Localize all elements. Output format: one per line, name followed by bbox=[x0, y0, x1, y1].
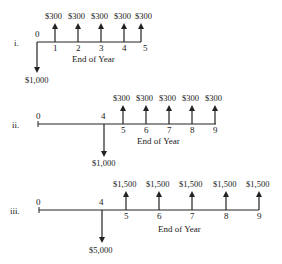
inflow-2: $300 2 bbox=[68, 11, 85, 53]
timeline-i: i. 0 $1,000 $300 1 $300 2 $300 3 $300 4 bbox=[14, 11, 152, 85]
axis-caption: End of Year bbox=[72, 54, 115, 64]
inflow-9: $1,500 9 bbox=[246, 179, 269, 221]
inflow-amount: $300 bbox=[114, 11, 131, 21]
year-label: 8 bbox=[224, 211, 229, 221]
inflow-6: $300 6 bbox=[136, 93, 153, 135]
timeline-ii: ii. 0 4 $1,000 $300 5 $300 6 $300 7 $300… bbox=[12, 93, 222, 168]
inflow-6: $1,500 6 bbox=[146, 179, 169, 221]
inflow-7: $300 7 bbox=[159, 93, 176, 135]
inflow-8: $1,500 8 bbox=[213, 179, 236, 221]
year-label: 5 bbox=[143, 43, 148, 53]
inflow-amount: $300 bbox=[135, 11, 152, 21]
year-label: 9 bbox=[257, 211, 262, 221]
year-zero-label: 0 bbox=[36, 197, 41, 207]
year-label: 9 bbox=[213, 125, 218, 135]
inflow-amount: $300 bbox=[68, 11, 85, 21]
inflow-amount: $300 bbox=[136, 93, 153, 103]
diagram-label: ii. bbox=[12, 120, 19, 130]
inflow-amount: $300 bbox=[113, 93, 130, 103]
year-label: 3 bbox=[99, 43, 104, 53]
cash-flow-diagrams: i. 0 $1,000 $300 1 $300 2 $300 3 $300 4 bbox=[0, 0, 282, 264]
year-label: 7 bbox=[190, 211, 195, 221]
outflow-amount: $1,000 bbox=[92, 158, 115, 168]
inflow-amount: $1,500 bbox=[113, 179, 136, 189]
inflow-7: $1,500 7 bbox=[179, 179, 202, 221]
inflow-amount: $1,500 bbox=[213, 179, 236, 189]
diagram-label: i. bbox=[14, 38, 19, 48]
inflow-amount: $300 bbox=[205, 93, 222, 103]
inflow-9: $300 9 bbox=[205, 93, 222, 135]
year-label: 2 bbox=[76, 43, 81, 53]
year-label: 7 bbox=[167, 125, 172, 135]
timeline-iii: iii. 0 4 $5,000 $1,500 5 $1,500 6 $1,500… bbox=[10, 179, 269, 255]
inflow-amount: $300 bbox=[45, 11, 62, 21]
inflow-amount: $1,500 bbox=[146, 179, 169, 189]
outflow-year-label: 4 bbox=[101, 111, 106, 121]
inflow-amount: $1,500 bbox=[246, 179, 269, 189]
inflow-5: $1,500 5 bbox=[113, 179, 136, 221]
axis-caption: End of Year bbox=[158, 224, 201, 234]
year-label: 8 bbox=[190, 125, 195, 135]
year-zero-label: 0 bbox=[35, 29, 40, 39]
year-zero-label: 0 bbox=[36, 111, 41, 121]
inflow-amount: $1,500 bbox=[179, 179, 202, 189]
year-label: 6 bbox=[144, 125, 149, 135]
inflow-amount: $300 bbox=[182, 93, 199, 103]
inflow-5: $300 5 bbox=[113, 93, 130, 135]
inflow-amount: $300 bbox=[91, 11, 108, 21]
outflow-amount: $5,000 bbox=[89, 245, 112, 255]
inflow-8: $300 8 bbox=[182, 93, 199, 135]
inflow-amount: $300 bbox=[159, 93, 176, 103]
inflow-1: $300 1 bbox=[45, 11, 62, 53]
inflow-3: $300 3 bbox=[91, 11, 108, 53]
year-label: 1 bbox=[53, 43, 58, 53]
year-label: 5 bbox=[121, 125, 126, 135]
year-label: 4 bbox=[122, 43, 127, 53]
year-label: 5 bbox=[124, 211, 129, 221]
inflow-5: $300 5 bbox=[135, 11, 152, 53]
year-label: 6 bbox=[157, 211, 162, 221]
diagram-label: iii. bbox=[10, 206, 20, 216]
inflow-4: $300 4 bbox=[114, 11, 131, 53]
outflow-amount: $1,000 bbox=[25, 75, 48, 85]
axis-caption: End of Year bbox=[137, 136, 180, 146]
outflow-year-label: 4 bbox=[99, 197, 104, 207]
